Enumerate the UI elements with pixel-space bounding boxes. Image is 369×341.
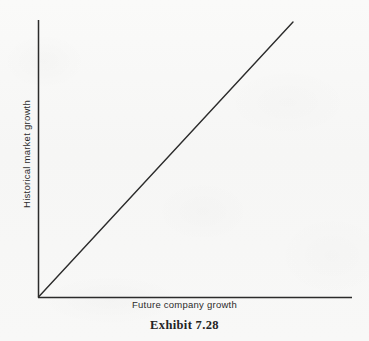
x-axis-label: Future company growth — [0, 299, 369, 310]
exhibit-caption: Exhibit 7.28 — [0, 318, 369, 333]
identity-line-series — [39, 22, 294, 297]
exhibit-figure: Historical market growth Future company … — [0, 0, 369, 341]
chart-plot-area — [0, 0, 369, 341]
y-axis-label: Historical market growth — [21, 100, 32, 208]
